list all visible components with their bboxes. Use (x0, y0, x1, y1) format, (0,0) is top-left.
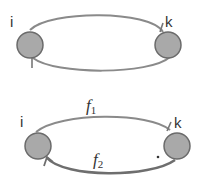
dot-annotation (157, 156, 160, 159)
node-k-label: k (165, 13, 173, 30)
node-i-label: i (20, 113, 23, 130)
edge-label-f1: f1 (86, 96, 96, 116)
node-k (164, 133, 190, 159)
arrow-head-icon (44, 157, 53, 166)
node-k-label: k (174, 114, 182, 131)
edge-label-f2: f2 (93, 150, 103, 170)
bottom-diagram: f1 f2 i k (20, 96, 190, 173)
diagram-canvas: i k f1 f2 i (0, 0, 203, 181)
edge-bottom-k-to-i (47, 158, 175, 173)
node-i (17, 32, 43, 58)
edge-bottom-i-to-k (36, 117, 170, 132)
edge-top-k-to-i (33, 57, 170, 71)
node-i (25, 133, 51, 159)
diagram-svg: i k f1 f2 i (0, 0, 203, 181)
node-k (155, 32, 181, 58)
edge-top-i-to-k (30, 15, 163, 32)
top-diagram: i k (10, 13, 181, 71)
node-i-label: i (10, 13, 13, 30)
